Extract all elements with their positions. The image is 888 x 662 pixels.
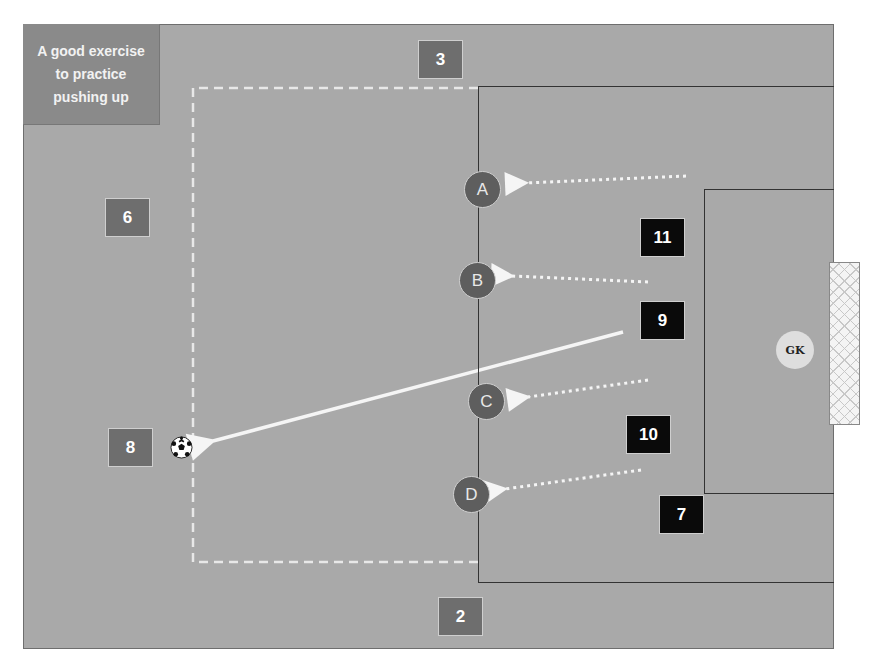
soccer-ball-icon[interactable] <box>170 436 193 459</box>
support-player-3[interactable]: 3 <box>418 40 463 79</box>
attacker-9[interactable]: 9 <box>640 301 685 340</box>
dashed-zone-line <box>193 88 478 562</box>
defender-a[interactable]: A <box>464 171 501 208</box>
defender-b[interactable]: B <box>459 262 496 299</box>
goalkeeper[interactable]: GK <box>776 331 814 369</box>
six-yard-box <box>704 189 834 494</box>
support-player-6[interactable]: 6 <box>105 198 150 237</box>
attacker-7[interactable]: 7 <box>659 495 704 534</box>
goal-net <box>829 262 860 425</box>
support-player-8[interactable]: 8 <box>108 428 153 467</box>
defender-d[interactable]: D <box>453 476 490 513</box>
support-player-2[interactable]: 2 <box>438 597 483 636</box>
attacker-11[interactable]: 11 <box>640 218 685 257</box>
attacker-10[interactable]: 10 <box>626 415 671 454</box>
defender-c[interactable]: C <box>468 383 505 420</box>
